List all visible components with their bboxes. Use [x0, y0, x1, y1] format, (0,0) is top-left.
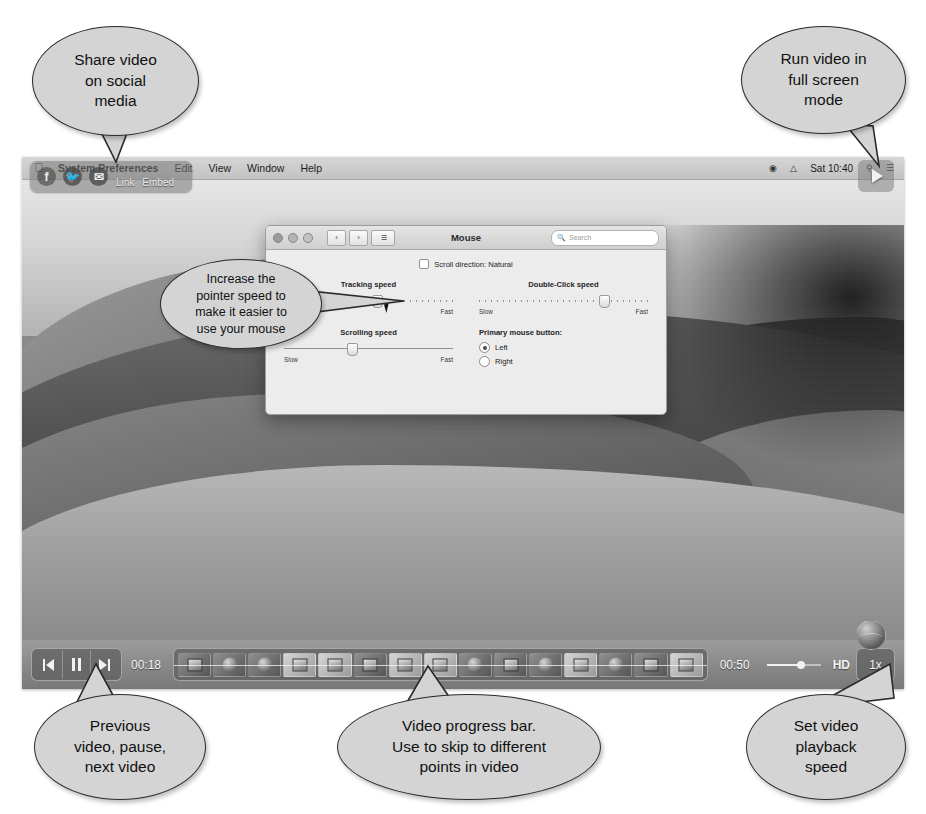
primary-button-option-left[interactable]: Left [479, 342, 648, 353]
forward-button[interactable]: › [349, 230, 368, 246]
scrolling-speed-control: Scrolling speed Slow Fast [284, 328, 453, 363]
prefs-nav-group: ‹ › ☰ [327, 230, 395, 246]
primary-mouse-button-label: Primary mouse button: [479, 328, 648, 337]
video-player:  System Preferences Edit View Window He… [22, 157, 904, 689]
show-all-button[interactable]: ☰ [371, 230, 395, 246]
share-link-embed-labels: Link Embed [116, 166, 174, 188]
current-time-label: 00:18 [131, 658, 161, 672]
scrolling-slow-label: Slow [284, 356, 298, 363]
double-click-speed-slider[interactable] [479, 296, 648, 306]
prefs-right-column: Double-Click speed Slow Fast Primary mou… [479, 280, 648, 376]
callout-fullscreen-text: Run video in full screen mode [770, 49, 876, 110]
slider-track [479, 300, 648, 302]
radio-right-icon[interactable] [479, 356, 490, 367]
radio-left-label: Left [495, 343, 508, 352]
previous-icon [43, 659, 54, 671]
share-embed-label[interactable]: Embed [142, 177, 174, 188]
radio-right-label: Right [495, 357, 513, 366]
scrolling-fast-label: Fast [441, 356, 453, 363]
double-click-end-labels: Slow Fast [479, 308, 648, 315]
callout-transport-text: Previous video, pause, next video [64, 716, 176, 777]
scroll-direction-row[interactable]: Scroll direction: Natural [284, 259, 648, 269]
callout-pointer-text: Increase the pointer speed to make it ea… [185, 271, 297, 337]
menu-item-view[interactable]: View [201, 162, 240, 174]
wallpaper-dune-4 [22, 465, 904, 640]
tracking-fast-label: Fast [441, 308, 453, 315]
scrolling-speed-end-labels: Slow Fast [284, 356, 453, 363]
prefs-body: Scroll direction: Natural Tracking speed… [266, 250, 666, 415]
facebook-icon[interactable]: f [37, 167, 56, 186]
duration-label: 00:50 [720, 658, 750, 672]
wifi-icon[interactable]: ◉ [769, 163, 777, 173]
battery-icon[interactable]: △ [790, 163, 797, 173]
globe-icon [856, 620, 886, 650]
slider-knob[interactable] [347, 343, 358, 356]
menu-item-window[interactable]: Window [239, 162, 292, 174]
slider-knob[interactable] [599, 295, 610, 308]
double-click-fast-label: Fast [636, 308, 648, 315]
menu-item-help[interactable]: Help [292, 162, 330, 174]
radio-left-icon[interactable] [479, 342, 490, 353]
mouse-preferences-window: ‹ › ☰ Mouse 🔍 Search Scroll direction: N… [265, 225, 667, 415]
scroll-direction-label: Scroll direction: Natural [434, 260, 513, 269]
search-icon: 🔍 [557, 234, 566, 242]
primary-button-option-right[interactable]: Right [479, 356, 648, 367]
wallpaper-shadow [639, 225, 904, 465]
prefs-search-field[interactable]: 🔍 Search [551, 230, 659, 246]
double-click-speed-label: Double-Click speed [479, 280, 648, 289]
zoom-button-icon[interactable] [303, 232, 314, 243]
video-control-bar: 00:18 00:50 [22, 640, 904, 689]
slider-track [284, 348, 453, 349]
callout-progress-bar: Video progress bar. Use to skip to diffe… [337, 694, 601, 800]
email-icon[interactable]: ✉ [89, 167, 108, 186]
scrolling-speed-slider[interactable] [284, 344, 453, 354]
window-traffic-lights [273, 233, 313, 243]
back-button[interactable]: ‹ [327, 230, 346, 246]
callout-fullscreen: Run video in full screen mode [741, 26, 906, 134]
callout-playback-speed: Set video playback speed [746, 694, 906, 800]
double-click-slow-label: Slow [479, 308, 493, 315]
fullscreen-play-icon [872, 169, 883, 183]
scrolling-speed-label: Scrolling speed [284, 328, 453, 337]
close-button-icon[interactable] [273, 233, 283, 243]
share-link-label[interactable]: Link [116, 177, 134, 188]
callout-share-text: Share video on social media [64, 50, 167, 111]
callout-share-video: Share video on social media [32, 26, 199, 136]
callout-speed-text: Set video playback speed [784, 716, 869, 777]
minimize-button-icon[interactable] [288, 233, 298, 243]
double-click-speed-control: Double-Click speed Slow Fast [479, 280, 648, 315]
callout-transport: Previous video, pause, next video [34, 694, 206, 800]
callout-pointer-speed: Increase the pointer speed to make it ea… [160, 259, 322, 349]
primary-mouse-button-group: Primary mouse button: Left Right [479, 328, 648, 367]
prefs-title-bar[interactable]: ‹ › ☰ Mouse 🔍 Search [266, 226, 666, 250]
previous-video-button[interactable] [35, 650, 63, 679]
twitter-icon[interactable]: 🐦 [63, 167, 82, 186]
scroll-direction-checkbox[interactable] [419, 259, 429, 269]
callout-progress-text: Video progress bar. Use to skip to diffe… [382, 716, 556, 777]
prefs-search-placeholder: Search [569, 234, 591, 241]
